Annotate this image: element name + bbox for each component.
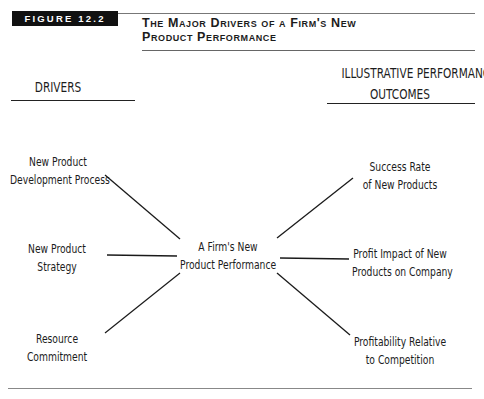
connector-driver-2 xyxy=(107,255,177,256)
driver-label-line-1: New Product xyxy=(9,241,105,259)
center-label-line-2: Product Performance xyxy=(180,257,276,275)
driver-label-line-1: New Product xyxy=(10,154,106,172)
center-label-line-1: A Firm's New xyxy=(180,239,276,257)
bottom-rule xyxy=(8,388,472,389)
center-node-firm-performance: A Firm's New Product Performance xyxy=(168,239,288,274)
connector-outcome-2 xyxy=(280,258,349,259)
driver-label-line-1: Resource xyxy=(9,331,105,349)
driver-node-resource-commitment: Resource Commitment xyxy=(0,331,117,366)
outcome-label-line-2: Products on Company xyxy=(352,264,448,282)
outcome-label-line-1: Success Rate xyxy=(352,159,448,177)
driver-label-line-2: Development Process xyxy=(10,172,106,190)
outcome-label-line-1: Profit Impact of New xyxy=(352,246,448,264)
outcome-node-profit-impact: Profit Impact of New Products on Company xyxy=(340,246,460,281)
outcome-node-profitability: Profitability Relative to Competition xyxy=(340,334,460,369)
driver-label-line-2: Commitment xyxy=(9,349,105,367)
driver-node-strategy: New Product Strategy xyxy=(0,241,117,276)
outcome-label-line-2: to Competition xyxy=(352,352,448,370)
driver-label-line-2: Strategy xyxy=(9,259,105,277)
connector-driver-3 xyxy=(105,273,180,333)
connector-outcome-3 xyxy=(277,273,350,335)
outcome-node-success-rate: Success Rate of New Products xyxy=(340,159,460,194)
outcome-label-line-2: of New Products xyxy=(352,177,448,195)
outcome-label-line-1: Profitability Relative xyxy=(352,334,448,352)
driver-node-development-process: New Product Development Process xyxy=(0,154,118,189)
